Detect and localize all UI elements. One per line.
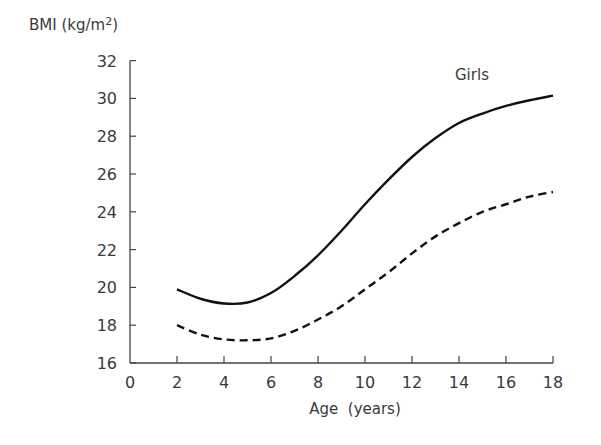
x-tick-label: 4 <box>219 373 229 392</box>
x-tick-label: 8 <box>313 373 323 392</box>
y-tick-label: 28 <box>97 127 117 146</box>
dashed-line-series <box>177 192 553 340</box>
y-tick-label: 16 <box>97 354 117 373</box>
y-tick-label: 26 <box>97 165 117 184</box>
x-axis-label: Age (years) <box>309 400 401 418</box>
x-tick-label: 0 <box>125 373 135 392</box>
chart-annotation: Girls <box>455 66 489 84</box>
x-tick-label: 2 <box>172 373 182 392</box>
x-tick-label: 10 <box>355 373 375 392</box>
x-tick-label: 6 <box>266 373 276 392</box>
series-group <box>177 96 553 341</box>
x-tick-label: 12 <box>402 373 422 392</box>
x-tick-label: 14 <box>449 373 469 392</box>
solid-line-series <box>177 96 553 304</box>
x-tick-label: 16 <box>496 373 516 392</box>
x-tick-label: 18 <box>543 373 563 392</box>
y-tick-label: 20 <box>97 278 117 297</box>
y-tick-label: 18 <box>97 316 117 335</box>
y-tick-label: 24 <box>97 203 117 222</box>
y-tick-label: 22 <box>97 241 117 260</box>
bmi-chart: BMI (kg/m2) 1618202224262830320246810121… <box>0 0 601 445</box>
y-axis-label: BMI (kg/m2) <box>29 15 118 34</box>
axes: 161820222426283032024681012141618 <box>97 52 564 392</box>
y-tick-label: 32 <box>97 52 117 71</box>
y-tick-label: 30 <box>97 89 117 108</box>
